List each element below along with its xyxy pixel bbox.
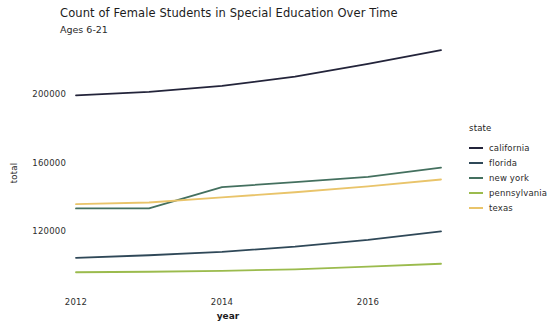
series-line-texas <box>76 180 441 205</box>
x-tick-label: 2014 <box>197 297 247 307</box>
x-axis-title: year <box>198 311 258 321</box>
legend-item-label: california <box>489 143 530 153</box>
legend-swatch-icon <box>469 192 483 194</box>
legend-swatch-icon <box>469 207 483 209</box>
series-line-florida <box>76 231 441 257</box>
legend-item-label: florida <box>489 158 517 168</box>
legend-item-label: new york <box>489 173 529 183</box>
legend-item-label: texas <box>489 203 513 213</box>
series-canvas <box>0 0 460 300</box>
y-tick-label: 200000 <box>8 89 66 99</box>
line-chart: Count of Female Students in Special Educ… <box>0 0 555 331</box>
legend-item-texas[interactable]: texas <box>469 200 551 215</box>
legend-item-california[interactable]: california <box>469 140 551 155</box>
plot-area: 200000160000120000 total 201220142016 <box>0 0 460 300</box>
x-tick-label: 2016 <box>343 297 393 307</box>
y-axis-title: total <box>9 153 19 193</box>
legend-title: state <box>469 123 551 133</box>
legend-item-new-york[interactable]: new york <box>469 170 551 185</box>
series-line-pennsylvania <box>76 264 441 273</box>
legend-item-pennsylvania[interactable]: pennsylvania <box>469 185 551 200</box>
x-axis-tick-labels: 201220142016 <box>0 297 460 311</box>
legend-swatch-icon <box>469 177 483 179</box>
legend: state californiafloridanew yorkpennsylva… <box>469 123 551 215</box>
legend-swatch-icon <box>469 147 483 149</box>
legend-item-florida[interactable]: florida <box>469 155 551 170</box>
y-tick-label: 120000 <box>8 226 66 236</box>
y-axis-tick-labels: 200000160000120000 <box>0 0 66 300</box>
legend-swatch-icon <box>469 162 483 164</box>
series-line-california <box>76 50 441 95</box>
x-tick-label: 2012 <box>51 297 101 307</box>
legend-item-label: pennsylvania <box>489 188 547 198</box>
legend-items: californiafloridanew yorkpennsylvaniatex… <box>469 140 551 215</box>
